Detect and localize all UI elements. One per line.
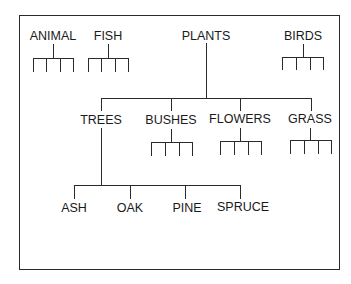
node-plants: PLANTS bbox=[182, 29, 231, 43]
hierarchy-diagram: ANIMAL FISH BIRDS PLANTS bbox=[0, 0, 351, 284]
node-animal-group: ANIMAL bbox=[30, 29, 77, 72]
node-oak: OAK bbox=[117, 201, 144, 215]
node-birds-group: BIRDS bbox=[282, 29, 324, 70]
node-flowers: FLOWERS bbox=[209, 112, 271, 126]
node-grass-group: GRASS bbox=[288, 112, 332, 154]
node-plants-group: PLANTS bbox=[101, 29, 312, 111]
node-fish-group: FISH bbox=[88, 29, 129, 72]
node-flowers-group: FLOWERS bbox=[209, 112, 271, 155]
node-grass: GRASS bbox=[288, 112, 332, 126]
node-birds: BIRDS bbox=[284, 29, 322, 43]
node-bushes-group: BUSHES bbox=[145, 113, 196, 156]
node-animal: ANIMAL bbox=[30, 29, 77, 43]
node-trees: TREES bbox=[80, 113, 122, 127]
node-ash: ASH bbox=[61, 201, 87, 215]
node-fish: FISH bbox=[94, 29, 122, 43]
node-bushes: BUSHES bbox=[145, 113, 196, 127]
node-spruce: SPRUCE bbox=[217, 200, 269, 214]
node-pine: PINE bbox=[172, 201, 201, 215]
